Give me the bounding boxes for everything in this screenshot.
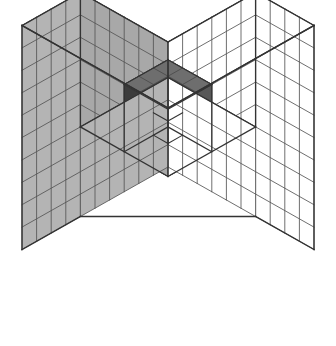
isometric-cube-diagram: Isometric cube cutaway diagram A large w… [0, 0, 336, 346]
cube-geometry [22, 0, 314, 250]
figure-stage: Isometric cube cutaway diagram A large w… [0, 0, 336, 346]
